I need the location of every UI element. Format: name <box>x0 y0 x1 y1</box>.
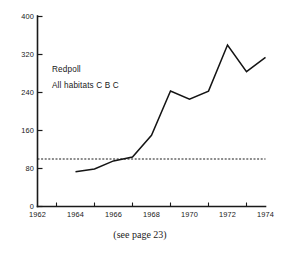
annotation-species-label: Redpoll <box>52 65 81 74</box>
figure-container: 400 320 240 160 80 0 1962 1964 1966 <box>0 0 281 260</box>
x-tick-label-1968: 1968 <box>143 210 160 219</box>
x-tick-label-1972: 1972 <box>219 210 236 219</box>
y-tick-label-320: 320 <box>21 50 34 59</box>
x-tick-label-1970: 1970 <box>181 210 198 219</box>
y-tick-label-160: 160 <box>21 126 34 135</box>
figure-caption: (see page 23) <box>113 229 166 241</box>
y-tick-label-400: 400 <box>21 12 34 21</box>
x-tick-label-1964: 1964 <box>67 210 84 219</box>
y-axis-tick-labels: 400 320 240 160 80 0 <box>21 12 34 211</box>
x-tick-label-1974: 1974 <box>257 210 274 219</box>
line-chart: 400 320 240 160 80 0 1962 1964 1966 <box>0 0 281 260</box>
x-axis-tick-labels: 1962 1964 1966 1968 1970 1972 1974 <box>29 210 274 219</box>
chart-annotations: Redpoll All habitats C B C <box>52 65 119 90</box>
x-tick-label-1962: 1962 <box>29 210 46 219</box>
y-axis-group: 400 320 240 160 80 0 <box>21 12 42 211</box>
x-tick-label-1966: 1966 <box>105 210 122 219</box>
y-tick-label-80: 80 <box>26 164 34 173</box>
annotation-habitat-label: All habitats C B C <box>52 81 119 90</box>
x-axis-group: 1962 1964 1966 1968 1970 1972 1974 <box>29 203 274 220</box>
data-series-line <box>76 45 266 172</box>
y-tick-label-240: 240 <box>21 88 34 97</box>
